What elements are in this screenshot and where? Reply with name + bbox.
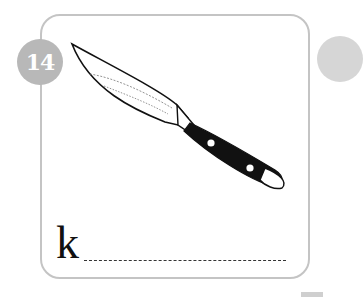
answer-line[interactable]	[84, 260, 286, 261]
card-number-badge: 14	[17, 39, 63, 85]
knife-illustration	[60, 30, 300, 200]
page-edge-mark	[301, 292, 323, 297]
next-card-badge	[317, 36, 363, 82]
starting-letter: k	[56, 220, 79, 266]
card-number: 14	[26, 49, 55, 75]
